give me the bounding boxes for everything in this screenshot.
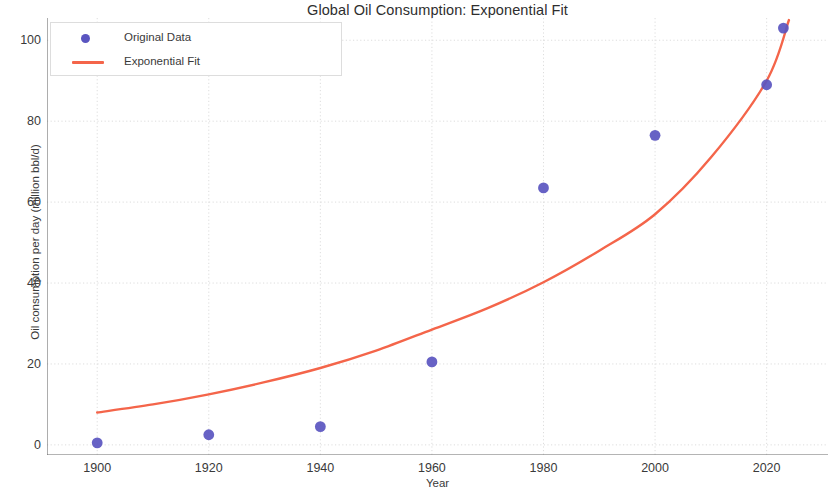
data-point — [778, 23, 789, 34]
dot-marker-icon — [67, 26, 113, 50]
x-axis-label: Year — [47, 477, 828, 489]
chart-figure: Global Oil Consumption: Exponential Fit … — [0, 0, 831, 498]
line-marker-icon — [67, 50, 113, 74]
exponential-fit-line — [97, 20, 789, 412]
data-point — [315, 421, 326, 432]
chart-legend: Original Data Exponential Fit — [50, 22, 342, 76]
data-point — [427, 357, 438, 368]
y-tick-label: 100 — [0, 34, 41, 47]
fit-curve-path — [97, 20, 789, 412]
legend-label-original-data: Original Data — [124, 31, 191, 43]
x-tick-label: 2020 — [737, 462, 797, 475]
legend-label-exponential-fit: Exponential Fit — [124, 55, 200, 67]
data-point — [538, 183, 549, 194]
y-axis-label: Oil consumption per day (million bbl/d) — [29, 112, 41, 372]
plot-area — [47, 18, 828, 455]
data-point — [650, 130, 661, 141]
x-tick-label: 1920 — [179, 462, 239, 475]
x-tick-label: 1960 — [402, 462, 462, 475]
chart-title: Global Oil Consumption: Exponential Fit — [47, 2, 828, 18]
x-tick-label: 1940 — [290, 462, 350, 475]
x-tick-label: 1980 — [513, 462, 573, 475]
data-point — [761, 79, 772, 90]
gridlines — [47, 18, 828, 455]
original-data-points — [92, 23, 789, 449]
x-tick-label: 2000 — [625, 462, 685, 475]
legend-entry-exponential-fit: Exponential Fit — [51, 50, 341, 74]
legend-entry-original-data: Original Data — [51, 26, 341, 50]
data-point — [203, 429, 214, 440]
plot-canvas — [47, 18, 828, 455]
y-tick-label: 0 — [0, 439, 41, 452]
x-tick-label: 1900 — [67, 462, 127, 475]
axis-spines — [47, 18, 828, 455]
data-point — [92, 437, 103, 448]
